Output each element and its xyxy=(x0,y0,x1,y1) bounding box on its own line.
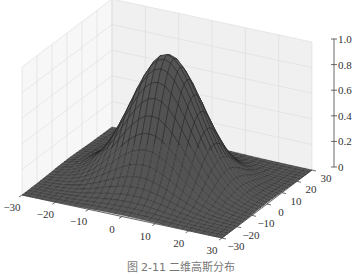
y-tick-label: −10 xyxy=(257,217,275,229)
y-tick-label: 0 xyxy=(278,206,284,218)
x-tick xyxy=(186,231,189,233)
y-tick xyxy=(267,204,271,205)
x-tick xyxy=(19,195,22,197)
y-tick xyxy=(297,181,301,182)
z-tick-label: 0 xyxy=(338,161,344,173)
z-tick-label: 0.8 xyxy=(338,59,352,71)
y-tick xyxy=(312,170,316,171)
x-tick xyxy=(119,217,122,219)
x-tick xyxy=(152,224,155,226)
z-tick-label: 0.6 xyxy=(338,84,352,96)
x-tick xyxy=(86,209,89,211)
z-tick-label: 0.2 xyxy=(338,135,352,147)
figure-caption: 图 2-11 二维高斯分布 xyxy=(0,258,362,274)
y-tick-label: −20 xyxy=(242,229,260,241)
y-tick xyxy=(222,238,226,239)
y-tick-label: 20 xyxy=(306,183,318,195)
y-tick xyxy=(282,193,286,194)
x-tick-label: 0 xyxy=(109,223,115,235)
z-tick-label: 0.4 xyxy=(338,110,352,122)
x-tick xyxy=(219,238,222,240)
x-tick-label: 10 xyxy=(140,230,152,242)
y-tick-label: 30 xyxy=(321,172,333,184)
x-tick-label: −30 xyxy=(3,201,21,213)
y-tick xyxy=(252,215,256,216)
x-tick-label: −10 xyxy=(70,215,88,227)
y-tick xyxy=(237,227,241,228)
x-tick-label: 20 xyxy=(173,237,185,249)
y-tick-label: 10 xyxy=(291,195,303,207)
x-tick xyxy=(52,202,55,204)
z-tick-label: 1.0 xyxy=(338,33,352,45)
y-tick-label: −30 xyxy=(227,240,245,252)
x-tick-label: 30 xyxy=(207,244,219,256)
x-tick-label: −20 xyxy=(37,208,55,220)
